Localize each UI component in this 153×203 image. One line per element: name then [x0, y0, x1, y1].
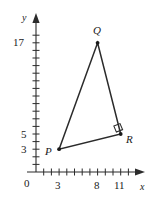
y-tick-label-5: 5 [21, 129, 27, 140]
vertex-point-q [96, 41, 100, 45]
x-axis-label: x [140, 182, 144, 192]
y-axis-label: y [22, 13, 26, 23]
origin-label: 0 [24, 178, 30, 189]
vertex-point-p [57, 147, 61, 151]
triangle-pqr [59, 43, 121, 149]
y-tick-label-3: 3 [21, 144, 27, 155]
vertex-label-p: P [45, 146, 52, 157]
right-angle-marker [114, 124, 123, 133]
x-axis-arrowhead [135, 168, 145, 175]
y-axis-arrowhead [32, 13, 39, 23]
vertex-label-q: Q [93, 25, 101, 36]
coordinate-plane-svg [0, 0, 153, 203]
x-tick-label-8: 8 [94, 180, 100, 191]
x-tick-label-11: 11 [114, 180, 125, 191]
geometry-figure: y x 0 17 5 3 3 8 11 P Q R [0, 0, 153, 203]
y-tick-label-17: 17 [13, 37, 24, 48]
vertex-label-r: R [126, 134, 133, 145]
x-tick-label-3: 3 [55, 180, 61, 191]
vertex-point-r [119, 132, 123, 136]
